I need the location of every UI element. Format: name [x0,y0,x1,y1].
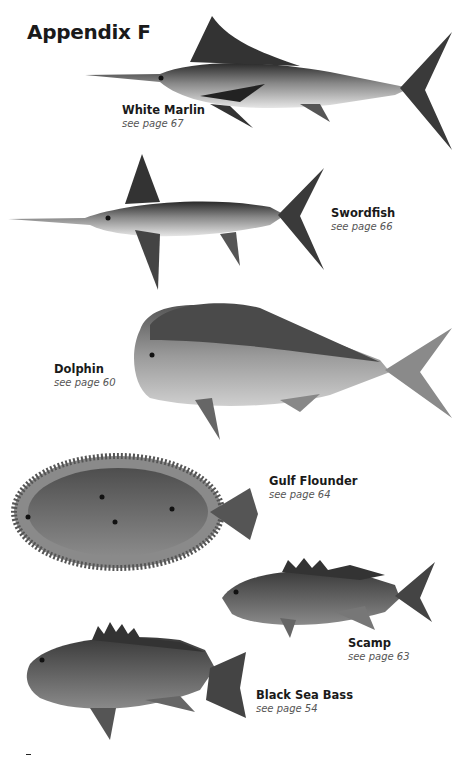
page-mark [26,754,31,755]
fish-label-swordfish: Swordfish see page 66 [331,206,395,233]
fish-name: Dolphin [54,362,116,376]
page-reference: see page 67 [122,117,205,130]
swordfish-illustration [8,154,324,290]
dolphin-illustration [134,303,452,440]
fish-label-dolphin: Dolphin see page 60 [54,362,116,389]
scamp-illustration [222,558,435,638]
fish-name: Gulf Flounder [269,474,357,488]
black-sea-bass-illustration [27,622,246,740]
page-reference: see page 60 [54,376,116,389]
page-reference: see page 66 [331,220,395,233]
page-reference: see page 54 [256,702,353,715]
page-reference: see page 64 [269,488,357,501]
fish-label-white-marlin: White Marlin see page 67 [122,103,205,130]
page-reference: see page 63 [348,650,410,663]
fish-label-gulf-flounder: Gulf Flounder see page 64 [269,474,357,501]
fish-name: Black Sea Bass [256,688,353,702]
fish-label-scamp: Scamp see page 63 [348,636,410,663]
fish-name: White Marlin [122,103,205,117]
fish-label-black-sea-bass: Black Sea Bass see page 54 [256,688,353,715]
fish-name: Swordfish [331,206,395,220]
fish-name: Scamp [348,636,410,650]
gulf-flounder-illustration [14,456,258,568]
